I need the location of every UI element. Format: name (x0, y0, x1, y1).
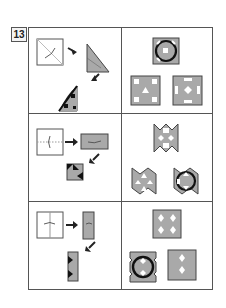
answer-options-row-3 (122, 202, 214, 290)
option-c (174, 168, 198, 194)
option-b (132, 168, 156, 194)
option-c (173, 76, 202, 105)
problem-number: 13 (11, 27, 27, 42)
folding-steps-row-2 (29, 114, 121, 201)
puzzle-grid (28, 27, 213, 290)
option-a (153, 38, 179, 64)
option-a (154, 124, 178, 152)
folding-steps-row-3 (29, 202, 121, 290)
folding-steps-row-1 (29, 28, 121, 113)
option-b (131, 76, 160, 105)
option-a (153, 210, 181, 238)
option-c (168, 250, 196, 280)
option-b (130, 252, 156, 282)
answer-options-row-1 (122, 28, 214, 113)
answer-options-row-2 (122, 114, 214, 201)
